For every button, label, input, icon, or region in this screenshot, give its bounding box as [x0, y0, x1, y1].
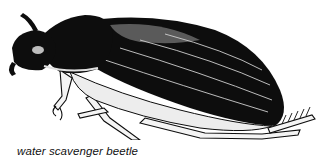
front-leg	[53, 70, 72, 120]
figure-caption: water scavenger beetle	[17, 145, 138, 157]
figure: water scavenger beetle	[0, 0, 333, 167]
beetle-illustration	[0, 0, 333, 140]
antenna	[20, 13, 38, 32]
eye	[32, 46, 44, 54]
